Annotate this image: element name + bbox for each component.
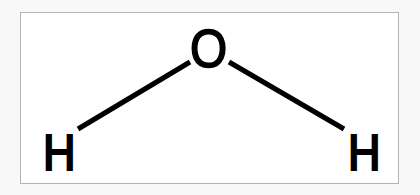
atom-label-hydrogen-right: H (348, 128, 380, 178)
bond-oxygen-hydrogen-left (78, 62, 190, 129)
atom-label-oxygen: O (190, 22, 227, 75)
molecule-diagram-canvas: O H H (0, 0, 420, 195)
bond-oxygen-hydrogen-right (229, 62, 344, 129)
atom-label-hydrogen-left: H (43, 128, 75, 178)
